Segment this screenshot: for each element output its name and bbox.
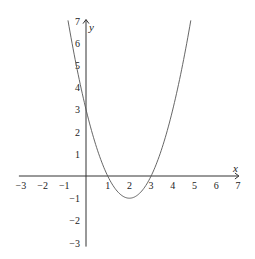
x-tick-label: 2 bbox=[127, 180, 132, 191]
y-tick-label: −2 bbox=[69, 215, 80, 226]
y-tick-label: 2 bbox=[75, 127, 80, 138]
x-tick-label: 3 bbox=[149, 180, 154, 191]
parabola-chart: −3−2−11234567−3−2−11234567 x y bbox=[0, 0, 255, 259]
y-tick-label: 6 bbox=[75, 38, 80, 49]
y-tick-label: −3 bbox=[69, 238, 80, 249]
y-tick-label: 3 bbox=[75, 104, 80, 115]
x-tick-label: −3 bbox=[16, 180, 27, 191]
x-tick-label: 1 bbox=[105, 180, 110, 191]
tick-labels: −3−2−11234567−3−2−11234567 bbox=[16, 16, 241, 249]
x-tick-label: 6 bbox=[214, 180, 219, 191]
x-tick-label: −1 bbox=[59, 180, 70, 191]
y-axis-label: y bbox=[88, 21, 94, 33]
x-tick-label: 5 bbox=[192, 180, 197, 191]
y-tick-label: 7 bbox=[75, 16, 80, 27]
y-tick-label: 1 bbox=[75, 149, 80, 160]
x-tick-label: 4 bbox=[170, 180, 175, 191]
x-tick-label: −2 bbox=[37, 180, 48, 191]
y-tick-label: −1 bbox=[69, 193, 80, 204]
x-tick-label: 7 bbox=[235, 180, 240, 191]
axes bbox=[19, 20, 239, 247]
y-tick-label: 4 bbox=[75, 82, 80, 93]
x-axis-label: x bbox=[232, 162, 238, 174]
